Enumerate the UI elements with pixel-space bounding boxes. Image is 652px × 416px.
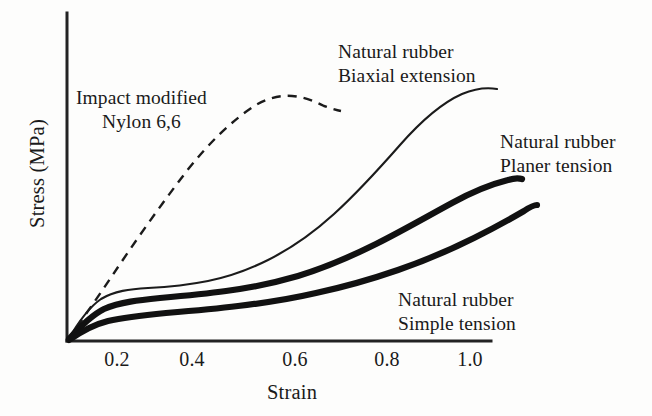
series-label-natural-rubber-biaxial: Natural rubber Biaxial extension	[338, 40, 476, 88]
series-label-simple-line1: Natural rubber	[398, 288, 516, 312]
x-tick-label-0: 0.2	[104, 349, 130, 369]
series-label-biaxial-line1: Natural rubber	[338, 40, 476, 64]
x-tick-label-4: 1.0	[457, 349, 483, 369]
x-axis-title: Strain	[267, 381, 317, 404]
x-tick-label-2: 0.6	[282, 349, 308, 369]
series-label-natural-rubber-planer: Natural rubber Planer tension	[500, 130, 616, 178]
series-label-natural-rubber-simple: Natural rubber Simple tension	[398, 288, 516, 336]
series-label-impact-modified-nylon: Impact modified Nylon 6,6	[76, 86, 207, 134]
plot-area	[0, 0, 652, 416]
series-label-biaxial-line2: Biaxial extension	[338, 64, 476, 88]
x-tick-label-3: 0.8	[374, 349, 400, 369]
x-tick-label-1: 0.4	[179, 349, 205, 369]
series-label-impact-line1: Impact modified	[76, 86, 207, 110]
y-axis-title: Stress (MPa)	[26, 114, 49, 234]
series-label-planer-line1: Natural rubber	[500, 130, 616, 154]
series-label-simple-line2: Simple tension	[398, 312, 516, 336]
stress-strain-chart: 0.2 0.4 0.6 0.8 1.0 Strain Stress (MPa) …	[0, 0, 652, 416]
series-label-planer-line2: Planer tension	[500, 154, 616, 178]
series-label-impact-line2: Nylon 6,6	[76, 110, 207, 134]
